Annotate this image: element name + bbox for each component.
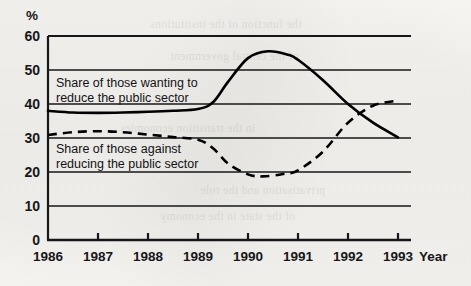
chart-page: the function of the institutions of the … <box>0 0 471 286</box>
gridlines <box>48 36 411 206</box>
series-line-wanting-reduce <box>48 51 398 137</box>
chart-plot <box>0 0 471 286</box>
